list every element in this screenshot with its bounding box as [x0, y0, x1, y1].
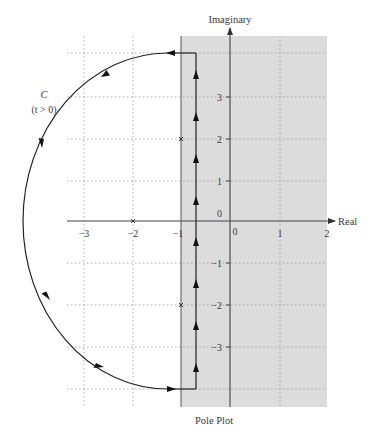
x-tick-label: 2 [325, 228, 330, 239]
pole-plot-diagram: −3 −2 −1 0 1 2 3 2 1 0 −1 −2 −3 Imaginar… [0, 0, 375, 436]
y-tick-label: −1 [211, 258, 222, 269]
real-axis-label: Real [338, 216, 357, 227]
figure-caption: Pole Plot [195, 415, 233, 426]
x-tick-label: −3 [79, 228, 90, 239]
y-tick-label-origin: 0 [217, 208, 222, 219]
x-tick-label: −1 [173, 228, 184, 239]
imaginary-axis-label: Imaginary [208, 14, 252, 25]
x-tick-label-origin: 0 [233, 226, 238, 237]
y-tick-label: 1 [217, 176, 222, 187]
x-tick-label: 1 [278, 228, 283, 239]
x-tick-label: −2 [128, 228, 139, 239]
y-tick-label: −2 [211, 300, 222, 311]
contour-condition-label: (t > 0) [31, 104, 56, 116]
poles [131, 137, 183, 307]
y-tick-label: 3 [217, 92, 222, 103]
y-tick-label: 2 [217, 134, 222, 145]
contour-name-label: C [40, 89, 48, 100]
y-tick-label: −3 [211, 342, 222, 353]
